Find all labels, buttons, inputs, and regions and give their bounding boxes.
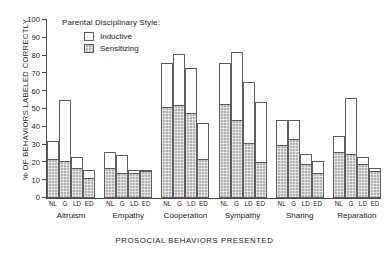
bar-group: NLGLDEDReparation	[333, 20, 381, 198]
sensitizing-bar-segment	[71, 168, 83, 198]
y-axis-tick-label: 90	[32, 34, 40, 42]
sensitizing-bar-segment	[116, 173, 128, 198]
sensitizing-bar-segment	[173, 105, 185, 198]
sensitizing-bar-segment	[312, 173, 324, 198]
sensitizing-bar-segment	[369, 171, 381, 198]
legend-item-sensitizing: Sensitizing	[84, 44, 160, 53]
sensitizing-bar-segment	[243, 143, 255, 198]
x-axis-title: PROSOCIAL BEHAVIORS PRESENTED	[0, 236, 389, 245]
sensitizing-bar-segment	[219, 104, 231, 198]
x-axis-subgroup-label: ED	[367, 200, 383, 207]
y-axis-tick-label: 70	[32, 70, 40, 78]
bar-group: NLGLDEDSympathy	[219, 20, 267, 198]
y-axis-tick-label: 100	[27, 16, 40, 24]
y-axis-tick-label: 10	[32, 177, 40, 185]
sensitizing-bar-segment	[333, 152, 345, 198]
sensitizing-bar-segment	[59, 161, 71, 198]
x-axis-category-label: Cooperation	[161, 211, 209, 220]
y-axis-tick-label: 30	[32, 141, 40, 149]
sensitizing-bar-segment	[47, 159, 59, 198]
legend-label-sensitizing: Sensitizing	[100, 44, 139, 53]
y-axis-tick-label: 0	[36, 194, 40, 202]
sensitizing-bar-segment	[197, 159, 209, 198]
sensitizing-bar-segment	[185, 113, 197, 198]
inductive-swatch-icon	[84, 32, 94, 41]
legend-title: Parental Disciplinary Style:	[62, 18, 160, 27]
x-axis-category-label: Sharing	[276, 211, 324, 220]
y-axis-title: % OF BEHAVIORS LABELED CORRECTLY	[21, 0, 30, 200]
sensitizing-bar-segment	[128, 173, 140, 198]
sensitizing-bar-segment	[357, 164, 369, 198]
y-axis-tick-label: 60	[32, 88, 40, 96]
x-axis-subgroup-label: ED	[81, 200, 97, 207]
sensitizing-bar-segment	[276, 145, 288, 198]
x-axis-subgroup-label: ED	[253, 200, 269, 207]
sensitizing-bar-segment	[288, 139, 300, 198]
sensitizing-bar-segment	[161, 107, 173, 198]
sensitizing-swatch-icon	[84, 44, 94, 53]
sensitizing-bar-segment	[140, 171, 152, 198]
x-axis-category-label: Altruism	[47, 211, 95, 220]
sensitizing-bar-segment	[255, 162, 267, 198]
x-axis-subgroup-label: ED	[310, 200, 326, 207]
legend: Parental Disciplinary Style: Inductive S…	[62, 18, 160, 56]
sensitizing-bar-segment	[231, 120, 243, 198]
legend-label-inductive: Inductive	[100, 32, 132, 41]
sensitizing-bar-segment	[345, 154, 357, 199]
x-axis-category-label: Sympathy	[219, 211, 267, 220]
y-axis-tick-label: 80	[32, 52, 40, 60]
y-axis-tick-label: 20	[32, 159, 40, 167]
bar-group: NLGLDEDCooperation	[161, 20, 209, 198]
y-axis-tick-label: 50	[32, 105, 40, 113]
bar-chart: % OF BEHAVIORS LABELED CORRECTLY PROSOCI…	[0, 0, 389, 253]
sensitizing-bar-segment	[300, 164, 312, 198]
x-axis-category-label: Empathy	[104, 211, 152, 220]
x-axis-subgroup-label: ED	[195, 200, 211, 207]
x-axis-category-label: Reparation	[333, 211, 381, 220]
y-axis-tick-label: 40	[32, 123, 40, 131]
sensitizing-bar-segment	[83, 178, 95, 198]
x-axis-subgroup-label: ED	[138, 200, 154, 207]
bar-group: NLGLDEDSharing	[276, 20, 324, 198]
legend-item-inductive: Inductive	[84, 32, 160, 41]
sensitizing-bar-segment	[104, 168, 116, 198]
